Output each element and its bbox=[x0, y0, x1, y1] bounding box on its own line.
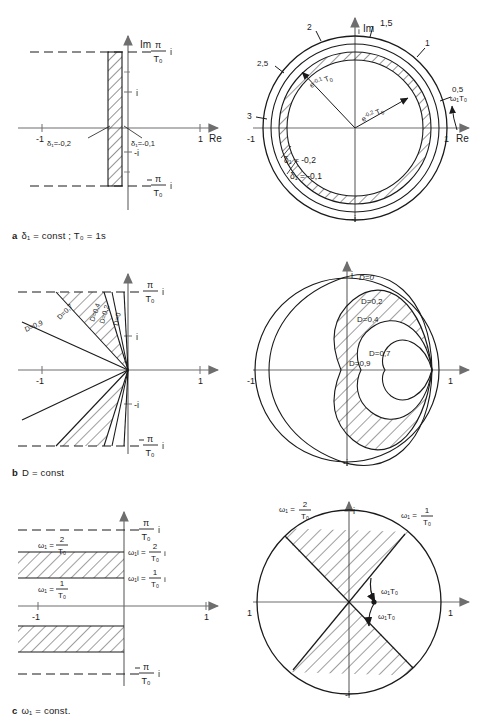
svg-text:ω₁ =: ω₁ = bbox=[38, 585, 54, 594]
svg-text:2: 2 bbox=[60, 535, 65, 544]
svg-text:π: π bbox=[143, 662, 149, 672]
label-pi-over-T0-i-upper: π T₀ i bbox=[139, 518, 160, 542]
svg-text:2: 2 bbox=[153, 542, 158, 551]
label-omega-i-upper: ω₁i = 2 T₀ i bbox=[128, 542, 166, 563]
svg-text:π: π bbox=[155, 174, 161, 184]
svg-text:T₀: T₀ bbox=[58, 591, 66, 600]
scale-label-1-5: 1,5 bbox=[380, 18, 393, 28]
scale-label-3: 3 bbox=[247, 111, 252, 121]
label-one: 1 bbox=[448, 376, 453, 386]
svg-text:e-0,2 T0: e-0,2 T0 bbox=[359, 105, 385, 125]
svg-text:i: i bbox=[158, 669, 160, 679]
label-d-07: D=0,7 bbox=[369, 349, 391, 358]
label-d-07: D=0,7 bbox=[56, 302, 74, 320]
label-minus-i: -i bbox=[134, 400, 139, 410]
label-i: i bbox=[353, 506, 355, 516]
svg-text:i: i bbox=[170, 181, 172, 191]
svg-text:i: i bbox=[158, 525, 160, 535]
svg-text:1: 1 bbox=[60, 579, 65, 588]
label-minus-i: -i bbox=[345, 690, 350, 700]
svg-text:T₀: T₀ bbox=[151, 554, 159, 563]
svg-text:π: π bbox=[155, 40, 161, 50]
label-arc-omega-upper: ω₁T₀ bbox=[381, 587, 398, 596]
label-delta-left: δ₁=-0,2 bbox=[47, 139, 71, 148]
caption-a-text: δ₁ = const ; T₀ = 1s bbox=[21, 230, 105, 241]
label-pi-over-T0-i-upper: π T₀ i bbox=[151, 40, 172, 64]
label-one: 1 bbox=[198, 376, 203, 386]
svg-text:π: π bbox=[147, 434, 153, 444]
svg-text:ω₁ =: ω₁ = bbox=[279, 505, 295, 514]
caption-b-text: D = const bbox=[22, 467, 64, 478]
caption-b: bD = const bbox=[12, 467, 64, 478]
caption-a: aδ₁ = const ; T₀ = 1s bbox=[12, 230, 106, 241]
omega-scale-arrow bbox=[452, 106, 457, 130]
svg-text:T₀: T₀ bbox=[141, 532, 150, 542]
label-d-09: D=0,9 bbox=[349, 359, 371, 368]
svg-text:ω₁i =: ω₁i = bbox=[128, 574, 146, 583]
label-minus-i: -i bbox=[351, 214, 356, 224]
label-i: i bbox=[351, 270, 353, 280]
svg-text:ω₁ =: ω₁ = bbox=[38, 541, 54, 550]
panel-b-left-s-plane: D=0 D=0,2 D=0,4 D=0,7 D=0,9 -1 1 i -i π … bbox=[0, 248, 245, 468]
svg-text:1: 1 bbox=[425, 506, 430, 515]
svg-text:i: i bbox=[164, 549, 166, 558]
label-minus-one: 1 bbox=[247, 608, 252, 618]
scale-label-2-5: 2,5 bbox=[257, 59, 269, 68]
svg-text:T₀: T₀ bbox=[145, 448, 154, 458]
label-pi-over-T0-i-lower: π T₀ i bbox=[139, 434, 164, 458]
label-one: 1 bbox=[448, 608, 453, 618]
scale-label-2: 2 bbox=[307, 22, 312, 32]
svg-text:T₀: T₀ bbox=[141, 676, 150, 686]
svg-text:ω₁i =: ω₁i = bbox=[128, 548, 146, 557]
label-minus-one: -1 bbox=[32, 612, 40, 622]
label-minus-i: -i bbox=[343, 458, 348, 468]
svg-text:T₀: T₀ bbox=[153, 54, 162, 64]
svg-text:i: i bbox=[162, 441, 164, 451]
svg-text:i: i bbox=[162, 287, 164, 297]
label-minus-one: -1 bbox=[247, 376, 255, 386]
label-delta-inner: δ₁ = -0,1 bbox=[290, 171, 322, 181]
region-omega-band-lower bbox=[18, 626, 124, 652]
region-omega-band-upper bbox=[18, 552, 124, 578]
svg-text:T₀: T₀ bbox=[301, 512, 309, 521]
label-minus-one: -1 bbox=[36, 376, 44, 386]
panel-a-right-z-plane: 0,5 1 1,5 2 2,5 3 ω₁T₀ e-0,1 T0 e-0,2 T0… bbox=[245, 0, 489, 228]
label-im: Im bbox=[140, 39, 151, 50]
label-i: i bbox=[358, 27, 360, 36]
label-one: 1 bbox=[204, 612, 209, 622]
d-rays bbox=[22, 292, 128, 446]
label-omega-i-lower: ω₁i = 1 T₀ i bbox=[128, 568, 166, 589]
caption-c-text: ω₁ = const. bbox=[21, 705, 70, 716]
label-d-04: D=0,4 bbox=[357, 315, 379, 324]
svg-text:i: i bbox=[170, 47, 172, 57]
label-i: i bbox=[136, 332, 138, 342]
panel-a-left-s-plane: -1 1 Re Im i -i δ₁=-0,2 δ₁=-0,1 π T₀ i π… bbox=[0, 0, 245, 228]
region-delta-band bbox=[108, 52, 122, 186]
panel-c-right-z-plane: ω₁T₀ ω₁T₀ ω₁ = 2 T₀ ω₁ = 1 T₀ 1 1 i -i bbox=[245, 490, 489, 700]
label-d-0: D=0 bbox=[112, 312, 122, 326]
svg-text:i: i bbox=[164, 575, 166, 584]
label-radius-e02: e-0,2 T0 bbox=[359, 105, 385, 125]
panel-c-left-s-plane: -1 1 ω₁ = 2 T₀ ω₁ = 1 T₀ ω₁i = 2 T₀ i ω₁… bbox=[0, 490, 245, 700]
label-d-0: D=0 bbox=[359, 273, 374, 282]
label-omega1-T0: ω₁T₀ bbox=[450, 94, 467, 103]
label-pi-over-T0-i-upper: π T₀ i bbox=[143, 280, 164, 304]
label-minus-one: -1 bbox=[36, 134, 44, 144]
label-delta-right: δ₁=-0,1 bbox=[131, 139, 155, 148]
svg-text:1: 1 bbox=[153, 568, 158, 577]
svg-text:π: π bbox=[143, 518, 149, 528]
svg-text:T₀: T₀ bbox=[153, 188, 162, 198]
label-one: 1 bbox=[444, 134, 449, 144]
svg-text:2: 2 bbox=[303, 500, 308, 509]
scale-label-1: 1 bbox=[425, 38, 430, 48]
caption-b-letter: b bbox=[12, 467, 22, 478]
label-omega-1-ray: ω₁ = 1 T₀ bbox=[401, 506, 433, 527]
svg-text:π: π bbox=[147, 280, 153, 290]
svg-text:T₀: T₀ bbox=[145, 294, 154, 304]
svg-text:T₀: T₀ bbox=[151, 580, 159, 589]
label-arc-omega-lower: ω₁T₀ bbox=[378, 612, 395, 621]
svg-text:ω₁ =: ω₁ = bbox=[401, 511, 417, 520]
label-re: Re bbox=[209, 133, 222, 144]
label-re: Re bbox=[456, 133, 469, 144]
label-d-02: D=0,2 bbox=[361, 297, 383, 306]
